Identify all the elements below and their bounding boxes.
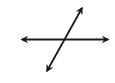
intersecting-lines-diagram <box>0 0 115 83</box>
